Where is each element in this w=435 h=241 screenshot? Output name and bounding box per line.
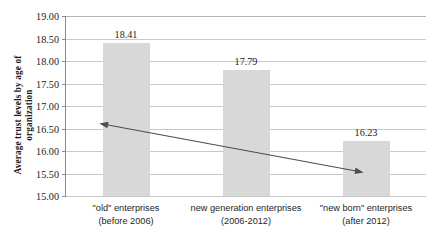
x-axis-category-line: (before 2006) xyxy=(93,215,160,228)
y-axis-tick xyxy=(62,196,66,197)
bar xyxy=(103,43,150,196)
y-axis-tick-label: 16.00 xyxy=(36,146,59,157)
y-axis-tick-label: 18.50 xyxy=(36,33,59,44)
y-axis-tick-label: 16.50 xyxy=(36,123,59,134)
x-axis-category-line: "new born" enterprises xyxy=(320,202,412,215)
x-axis-category-label: "new born" enterprises(after 2012) xyxy=(320,202,412,227)
y-axis-tick xyxy=(62,151,66,152)
y-axis-tick-label: 15.00 xyxy=(36,191,59,202)
y-axis-tick xyxy=(62,174,66,175)
y-axis-title-line-2: organization xyxy=(24,89,36,140)
y-axis-tick-label: 19.00 xyxy=(36,11,59,22)
bar-value-label: 17.79 xyxy=(235,56,258,67)
y-axis-tick-label: 15.50 xyxy=(36,168,59,179)
y-axis-tick-label: 17.00 xyxy=(36,101,59,112)
bar xyxy=(223,70,270,196)
plot-area: 19.0018.5018.0017.5017.0016.5016.0015.50… xyxy=(66,16,426,196)
y-axis-tick-label: 17.50 xyxy=(36,78,59,89)
bar-value-label: 18.41 xyxy=(115,29,138,40)
y-axis-tick xyxy=(62,61,66,62)
y-axis-title: Average trust levels by age of organizat… xyxy=(9,20,39,210)
y-axis-tick xyxy=(62,84,66,85)
x-axis-category-line: new generation enterprises xyxy=(191,202,302,215)
bar xyxy=(343,141,390,196)
y-axis-title-line-1: Average trust levels by age of xyxy=(13,56,25,175)
x-axis-category-label: "old" enterprises(before 2006) xyxy=(93,202,160,227)
y-axis-tick-label: 18.00 xyxy=(36,56,59,67)
x-axis-category-line: (after 2012) xyxy=(320,215,412,228)
x-axis-category-label: new generation enterprises(2006-2012) xyxy=(191,202,302,227)
x-axis-category-line: "old" enterprises xyxy=(93,202,160,215)
bar-value-label: 16.23 xyxy=(355,127,378,138)
y-axis-tick xyxy=(62,16,66,17)
bar-chart: Average trust levels by age of organizat… xyxy=(0,0,435,241)
x-axis-category-line: (2006-2012) xyxy=(191,215,302,228)
y-axis-tick xyxy=(62,39,66,40)
y-axis-tick xyxy=(62,129,66,130)
gridline xyxy=(66,196,426,197)
y-axis-tick xyxy=(62,106,66,107)
gridline xyxy=(66,16,426,17)
